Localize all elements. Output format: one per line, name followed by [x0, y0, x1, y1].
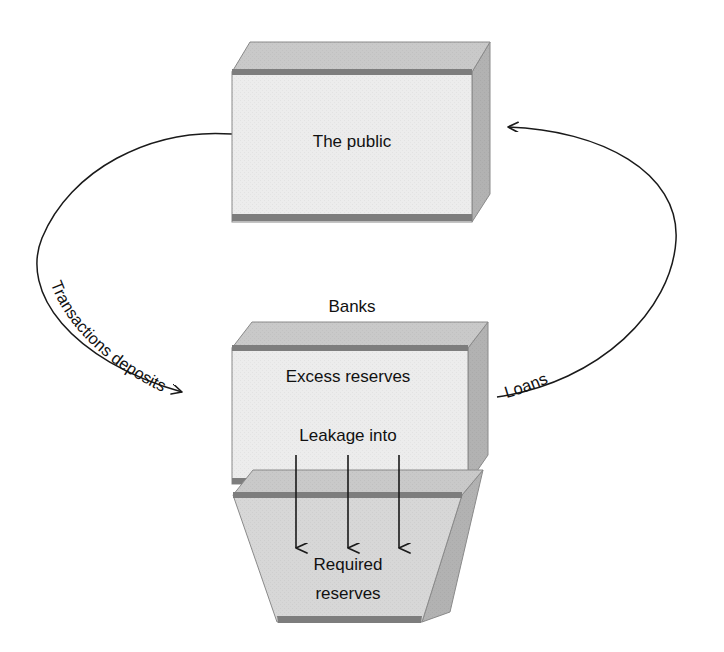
required-reserves-label-line2: reserves — [315, 584, 380, 603]
loans-label: Loans — [502, 369, 550, 401]
excess-reserves-label: Excess reserves — [286, 367, 411, 386]
transactions-deposits-label: Transactions deposits — [48, 278, 170, 395]
public-box-label: The public — [313, 132, 392, 151]
public-box-top-bar — [232, 69, 472, 75]
loans-arrow — [497, 127, 676, 397]
transactions-deposits-arrow — [37, 133, 232, 392]
leakage-into-label: Leakage into — [299, 426, 396, 445]
public-box-bottom-bar — [232, 214, 472, 221]
required-reserves-trapezoid: Required reserves — [233, 470, 483, 623]
required-reserves-label-line1: Required — [314, 555, 383, 574]
money-creation-diagram: The public Banks Excess reserves Leakage… — [0, 0, 724, 652]
diagram-canvas: The public Banks Excess reserves Leakage… — [0, 0, 724, 652]
excess-reserves-box: Excess reserves Leakage into — [232, 322, 488, 484]
banks-caption: Banks — [328, 297, 375, 316]
excess-box-top-bar — [232, 345, 468, 351]
required-trapezoid-bottom-bar — [277, 616, 422, 623]
public-box: The public — [232, 42, 490, 222]
